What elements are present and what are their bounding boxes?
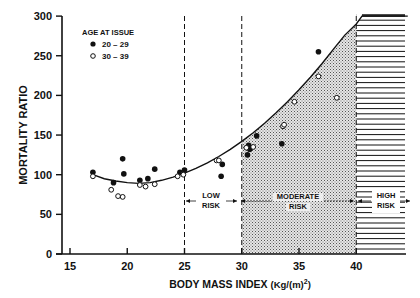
x-tick-label: 30 xyxy=(236,260,248,272)
open-data-point xyxy=(181,172,186,177)
open-data-point xyxy=(109,187,114,192)
filled-circle-icon xyxy=(90,41,95,46)
open-data-point xyxy=(334,95,339,100)
bmi-mortality-chart: 050100150200250300 152025303540 MORTALIT… xyxy=(0,0,420,298)
low-risk-label: LOW RISK xyxy=(186,190,237,214)
open-data-point xyxy=(216,158,221,163)
svg-text:RISK: RISK xyxy=(377,201,396,210)
x-tick-label: 25 xyxy=(178,260,190,272)
svg-text:RISK: RISK xyxy=(289,202,308,211)
legend: AGE AT ISSUE 20 – 29 30 – 39 xyxy=(82,28,134,61)
y-tick-label: 50 xyxy=(40,208,52,220)
svg-text:MODERATE: MODERATE xyxy=(277,192,319,201)
x-tick-label: 20 xyxy=(121,260,133,272)
y-tick-label: 100 xyxy=(34,169,52,181)
filled-data-point xyxy=(145,176,151,182)
legend-label-30-39: 30 – 39 xyxy=(102,52,129,61)
open-data-point xyxy=(120,195,125,200)
open-data-point xyxy=(91,174,96,179)
moderate-risk-shaded-area xyxy=(242,24,357,254)
open-data-point xyxy=(316,74,321,79)
x-tick-label: 40 xyxy=(350,260,362,272)
y-tick-label: 200 xyxy=(34,89,52,101)
open-data-point xyxy=(282,122,287,127)
svg-text:RISK: RISK xyxy=(202,201,221,210)
filled-data-point xyxy=(152,166,158,172)
open-data-point xyxy=(152,182,157,187)
filled-data-point xyxy=(120,156,126,162)
filled-data-point xyxy=(182,167,188,173)
y-tick-label: 150 xyxy=(34,129,52,141)
y-axis-ticks: 050100150200250300 xyxy=(34,10,62,260)
filled-data-point xyxy=(121,171,127,177)
open-data-point xyxy=(244,145,249,150)
open-circle-icon xyxy=(91,54,96,59)
high-risk-hatched-area xyxy=(356,10,405,249)
open-data-point xyxy=(251,145,256,150)
y-tick-label: 0 xyxy=(46,248,52,260)
filled-data-point xyxy=(279,141,285,147)
legend-title: AGE AT ISSUE xyxy=(82,28,134,37)
x-axis-label: BODY MASS INDEX (Kg/(m)2) xyxy=(169,278,311,290)
legend-label-20-29: 20 – 29 xyxy=(102,40,129,49)
open-data-point xyxy=(143,184,148,189)
filled-data-point xyxy=(111,180,117,186)
y-tick-label: 250 xyxy=(34,50,52,62)
filled-data-point xyxy=(254,133,260,139)
y-axis-label: MORTALITY RATIO xyxy=(17,85,29,185)
open-data-point xyxy=(137,183,142,188)
filled-data-point xyxy=(245,152,251,158)
x-tick-label: 15 xyxy=(64,260,76,272)
x-tick-label: 35 xyxy=(293,260,305,272)
y-tick-label: 300 xyxy=(34,10,52,22)
open-data-point xyxy=(292,99,297,104)
filled-data-point xyxy=(316,49,322,55)
filled-data-point xyxy=(218,173,224,179)
svg-text:LOW: LOW xyxy=(202,191,220,200)
svg-text:HIGH: HIGH xyxy=(377,191,396,200)
open-data-point xyxy=(116,194,121,199)
open-data-point xyxy=(175,174,180,179)
